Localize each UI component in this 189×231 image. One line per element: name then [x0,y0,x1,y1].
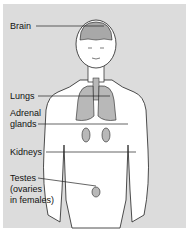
body-outline [44,80,149,228]
testes-organ [92,187,100,197]
label-testes-line3: in females) [10,195,54,205]
left-kidney [82,128,90,142]
label-testes-line2: (ovaries [10,184,42,194]
label-adrenal-line2: glands [10,119,37,129]
label-kidneys: Kidneys [10,147,42,157]
label-lungs: Lungs [10,91,35,101]
label-brain: Brain [10,21,31,31]
diagram-root: Brain Lungs Adrenal glands Kidneys Teste… [0,0,189,231]
label-testes-line1: Testes [10,173,36,183]
label-adrenal-line1: Adrenal [10,108,41,118]
right-kidney [102,128,110,142]
